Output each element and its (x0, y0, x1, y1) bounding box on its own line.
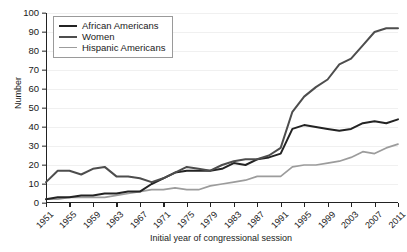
x-tick-mark (46, 203, 47, 207)
legend-swatch-women (59, 36, 77, 38)
x-tick-label: 2011 (387, 210, 407, 230)
legend-label-african-americans: African Americans (82, 20, 159, 31)
y-tick-label: 40 (28, 122, 46, 132)
legend-label-women: Women (82, 31, 115, 42)
x-tick-mark (69, 203, 70, 207)
x-tick-label: 1999 (316, 210, 337, 231)
x-tick-mark (210, 203, 211, 207)
x-tick-label: 1951 (35, 210, 56, 231)
x-tick-mark (328, 203, 329, 207)
y-tick-label: 90 (28, 27, 46, 37)
y-tick-label: 50 (28, 103, 46, 113)
legend: African Americans Women Hispanic America… (53, 16, 173, 58)
x-tick-label: 1975 (176, 210, 197, 231)
x-tick-mark (281, 203, 282, 207)
x-tick-mark (351, 203, 352, 207)
y-tick-label: 0 (34, 198, 46, 208)
x-tick-mark (163, 203, 164, 207)
legend-swatch-african-americans (59, 25, 77, 27)
legend-item-hispanic-americans: Hispanic Americans (59, 42, 165, 53)
x-tick-mark (257, 203, 258, 207)
y-tick-label: 10 (28, 179, 46, 189)
x-tick-label: 1963 (105, 210, 126, 231)
x-tick-label: 2003 (340, 210, 361, 231)
y-tick-label: 80 (28, 46, 46, 56)
x-tick-mark (304, 203, 305, 207)
y-axis-title: Number (13, 53, 23, 133)
legend-swatch-hispanic-americans (59, 47, 77, 48)
x-tick-mark (140, 203, 141, 207)
y-tick-label: 100 (23, 8, 46, 18)
series-line-hispanic-americans (46, 144, 398, 199)
x-tick-label: 1955 (58, 210, 79, 231)
y-tick-label: 20 (28, 160, 46, 170)
legend-item-african-americans: African Americans (59, 20, 165, 31)
y-tick-label: 70 (28, 65, 46, 75)
x-tick-mark (116, 203, 117, 207)
x-tick-label: 1983 (223, 210, 244, 231)
x-tick-label: 1971 (152, 210, 173, 231)
y-tick-label: 60 (28, 84, 46, 94)
legend-item-women: Women (59, 31, 165, 42)
x-tick-mark (234, 203, 235, 207)
y-tick-label: 30 (28, 141, 46, 151)
x-tick-label: 1967 (129, 210, 150, 231)
x-tick-label: 1991 (269, 210, 290, 231)
x-tick-label: 1995 (293, 210, 314, 231)
x-tick-mark (375, 203, 376, 207)
x-tick-label: 1979 (199, 210, 220, 231)
x-tick-label: 1959 (82, 210, 103, 231)
x-tick-label: 1987 (246, 210, 267, 231)
x-tick-mark (398, 203, 399, 207)
x-tick-mark (187, 203, 188, 207)
x-tick-mark (93, 203, 94, 207)
x-tick-label: 2007 (363, 210, 384, 231)
legend-label-hispanic-americans: Hispanic Americans (82, 42, 165, 53)
x-axis-title: Initial year of congressional session (36, 233, 406, 243)
